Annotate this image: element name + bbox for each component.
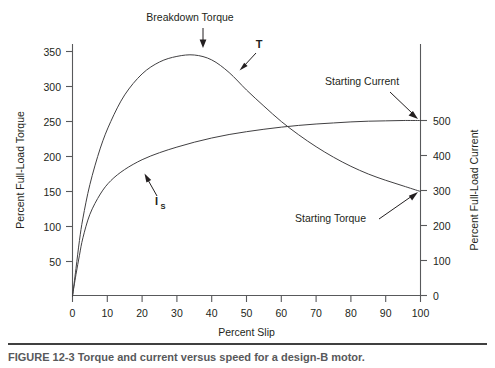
right-tick-label-400: 400 <box>433 150 451 162</box>
x-tick-label-70: 70 <box>310 307 322 319</box>
x-tick-label-0: 0 <box>70 307 76 319</box>
x-tick-label-90: 90 <box>380 307 392 319</box>
right-tick-label-500: 500 <box>433 115 451 127</box>
right-tick-label-100: 100 <box>433 255 451 267</box>
left-tick-label-350: 350 <box>43 46 61 58</box>
x-axis-title: Percent Slip <box>218 326 275 338</box>
current-tag-arrow-icon <box>145 174 152 183</box>
x-tick-label-100: 100 <box>412 307 430 319</box>
starting-torque-label: Starting Torque <box>295 212 366 224</box>
left-axis-tick-labels: 350 300 250 200 150 100 50 <box>43 46 61 268</box>
left-tick-label-100: 100 <box>43 221 61 233</box>
annotation-current-tag: I S <box>145 174 166 211</box>
left-tick-label-200: 200 <box>43 151 61 163</box>
x-axis-ticks <box>73 296 421 303</box>
starting-current-arrow-icon <box>409 111 418 119</box>
x-tick-label-50: 50 <box>241 307 253 319</box>
breakdown-torque-label: Breakdown Torque <box>146 11 234 23</box>
x-tick-label-10: 10 <box>101 307 113 319</box>
right-tick-label-0: 0 <box>433 290 439 302</box>
right-tick-label-300: 300 <box>433 185 451 197</box>
left-tick-label-150: 150 <box>43 186 61 198</box>
figure-container: 350 300 250 200 150 100 50 500 400 300 2… <box>0 0 495 368</box>
left-tick-label-300: 300 <box>43 81 61 93</box>
motor-torque-current-chart: 350 300 250 200 150 100 50 500 400 300 2… <box>0 0 495 368</box>
torque-curve <box>73 55 421 297</box>
right-axis-tick-labels: 500 400 300 200 100 0 <box>433 115 451 302</box>
left-axis-ticks <box>66 52 73 262</box>
current-curve-tag-label: I <box>155 195 158 207</box>
breakdown-torque-arrow-icon <box>200 40 207 49</box>
current-curve-tag-subscript: S <box>161 202 166 211</box>
right-tick-label-200: 200 <box>433 220 451 232</box>
x-tick-label-20: 20 <box>136 307 148 319</box>
starting-current-label: Starting Current <box>325 75 399 87</box>
y-axis-title: Percent Full-Load Torque <box>14 111 26 229</box>
starting-current-curve <box>73 120 421 295</box>
x-tick-label-30: 30 <box>171 307 183 319</box>
caption-divider <box>8 343 487 345</box>
torque-curve-tag-label: T <box>256 38 263 50</box>
left-tick-label-50: 50 <box>49 256 61 268</box>
figure-caption: FIGURE 12-3 Torque and current versus sp… <box>8 350 487 364</box>
right-axis-ticks <box>421 121 428 296</box>
x-tick-label-40: 40 <box>206 307 218 319</box>
x-tick-label-60: 60 <box>275 307 287 319</box>
x-axis-tick-labels: 0 10 20 30 40 50 60 70 80 90 100 <box>70 307 430 319</box>
annotation-torque-tag: T <box>240 38 263 71</box>
x-tick-label-80: 80 <box>345 307 357 319</box>
left-tick-label-250: 250 <box>43 116 61 128</box>
annotation-breakdown-torque: Breakdown Torque <box>146 11 234 48</box>
y2-axis-title: Percent Full-Load Current <box>468 130 480 251</box>
annotation-starting-current: Starting Current <box>325 75 418 119</box>
starting-torque-arrow-icon <box>409 192 418 201</box>
annotation-starting-torque: Starting Torque <box>295 192 418 224</box>
